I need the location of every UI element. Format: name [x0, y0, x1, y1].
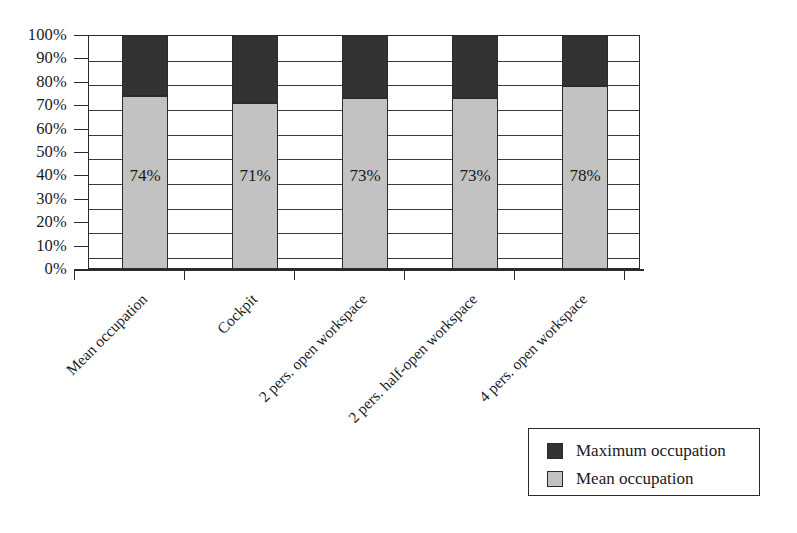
x-tick-mark	[404, 269, 405, 280]
y-axis	[88, 35, 89, 269]
category-label: Mean occupation	[63, 291, 150, 378]
y-tick-mark	[74, 175, 88, 176]
y-tick-mark	[74, 129, 88, 130]
x-tick-mark	[74, 269, 75, 280]
legend-swatch-mean-occupation	[547, 471, 563, 487]
y-tick-mark	[74, 35, 88, 36]
y-tick-label: 40%	[36, 167, 74, 184]
y-tick-label: 70%	[36, 97, 74, 114]
y-tick-label: 80%	[36, 74, 74, 91]
bar-value-label: 73%	[342, 167, 388, 184]
y-tick-label: 20%	[36, 214, 74, 231]
bar-column: 73%	[342, 35, 388, 269]
bar-column: 71%	[232, 35, 278, 269]
bar-segment-maximum-occupation	[122, 35, 168, 96]
stacked-bar-chart: 100%90%80%70%60%50%40%30%20%10%0% 74%71%…	[0, 0, 797, 533]
y-tick-label: 90%	[36, 50, 74, 67]
legend-item-mean-occupation: Mean occupation	[547, 466, 759, 491]
chart-legend: Maximum occupation Mean occupation	[528, 428, 760, 496]
bar-segment-maximum-occupation	[232, 35, 278, 103]
legend-label-mean-occupation: Mean occupation	[576, 470, 694, 487]
bar-segment-maximum-occupation	[342, 35, 388, 98]
category-label: 2 pers. open workspace	[256, 291, 370, 405]
y-tick-label: 30%	[36, 191, 74, 208]
y-tick-mark	[74, 199, 88, 200]
category-label: 4 pers. open workspace	[476, 291, 590, 405]
x-tick-mark	[624, 269, 625, 280]
y-tick-label: 60%	[36, 120, 74, 137]
bar-segment-maximum-occupation	[562, 35, 608, 86]
y-tick-mark	[74, 58, 88, 59]
bar-value-label: 78%	[562, 167, 608, 184]
y-tick-label: 100%	[28, 27, 74, 44]
y-tick-mark	[74, 269, 88, 270]
y-tick-mark	[74, 246, 88, 247]
x-tick-mark	[184, 269, 185, 280]
bar-column: 78%	[562, 35, 608, 269]
y-tick-label: 50%	[36, 144, 74, 161]
y-tick-mark	[74, 152, 88, 153]
category-label: Cockpit	[214, 291, 260, 337]
legend-swatch-maximum-occupation	[547, 443, 563, 459]
bar-column: 74%	[122, 35, 168, 269]
bar-value-label: 73%	[452, 167, 498, 184]
category-label: 2 pers. half-open workspace	[345, 291, 480, 426]
bar-value-label: 74%	[122, 167, 168, 184]
y-tick-label: 10%	[36, 237, 74, 254]
bar-segment-maximum-occupation	[452, 35, 498, 98]
bar-column: 73%	[452, 35, 498, 269]
x-axis	[74, 269, 644, 271]
y-tick-mark	[74, 105, 88, 106]
x-tick-mark	[514, 269, 515, 280]
x-tick-mark	[294, 269, 295, 280]
legend-label-maximum-occupation: Maximum occupation	[576, 442, 726, 459]
y-tick-mark	[74, 222, 88, 223]
y-tick-label: 0%	[45, 261, 74, 278]
legend-item-maximum-occupation: Maximum occupation	[547, 438, 759, 463]
bar-value-label: 71%	[232, 167, 278, 184]
bar-segment-mean-occupation	[232, 103, 278, 269]
y-tick-mark	[74, 82, 88, 83]
